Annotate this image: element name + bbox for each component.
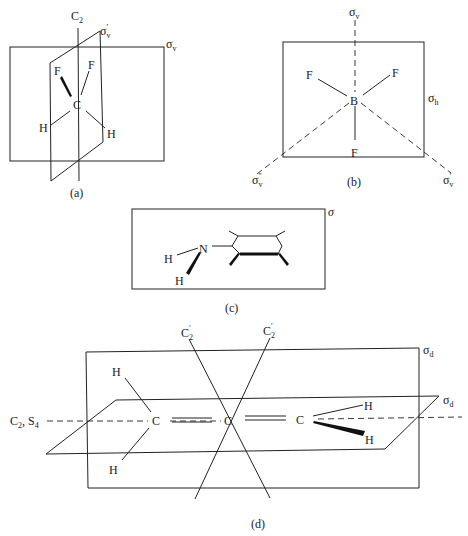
caption-d: (d) <box>251 517 265 531</box>
substituent <box>276 231 285 236</box>
panel-d: H H H H C C C C2, S4 C2′ C2′ σd σd (d) <box>10 322 462 531</box>
symmetry-figure: C2 σv′ σv F F C H H (a) σv σh σv″ σv′ F … <box>0 0 468 536</box>
panel-c: σ N H H (c) <box>132 205 335 315</box>
atom-h: H <box>112 365 121 379</box>
atom-f: F <box>306 68 313 82</box>
sigma-v-double-prime-line <box>257 103 349 174</box>
atom-f: F <box>88 58 95 72</box>
atom-b: B <box>350 94 358 108</box>
caption-a: (a) <box>70 186 83 200</box>
wedge-bond <box>60 76 72 97</box>
substituent <box>229 231 238 236</box>
bond <box>318 79 347 96</box>
atom-h: H <box>109 463 118 477</box>
atom-c: C <box>296 413 304 427</box>
sigma-plane <box>132 209 325 289</box>
wedge-bond <box>313 421 365 436</box>
sigma-v-double-prime-label: σv″ <box>252 172 262 189</box>
panel-b: σv σh σv″ σv′ F F B F (b) <box>252 5 453 189</box>
atom-c: C <box>224 414 232 428</box>
atom-h: H <box>107 127 116 141</box>
caption-c: (c) <box>225 301 238 315</box>
bond <box>122 428 149 460</box>
ring-bond <box>278 246 282 254</box>
atom-h: H <box>39 121 48 135</box>
atom-h: H <box>164 252 173 266</box>
wedge <box>278 253 289 266</box>
bond <box>81 71 89 95</box>
sigma-d-label-1: σd <box>423 343 433 359</box>
ring-bond <box>232 236 238 246</box>
bond <box>51 111 70 125</box>
sigma-label: σ <box>328 205 335 219</box>
c2-prime-left-label: C2′ <box>181 324 193 342</box>
ring-bond <box>232 246 240 254</box>
caption-b: (b) <box>347 175 361 189</box>
atom-h: H <box>365 433 374 447</box>
sigma-v-plane <box>10 47 164 161</box>
sigma-v-label: σv <box>349 5 359 21</box>
atom-h: H <box>175 274 184 288</box>
sigma-d-label-2: σd <box>443 393 453 409</box>
sigma-v-label: σv <box>166 37 176 53</box>
atom-c: C <box>152 414 160 428</box>
sigma-v-prime-label: σv′ <box>443 172 453 189</box>
c2-s4-axis-label: C2, S4 <box>10 414 39 430</box>
bond <box>177 248 198 255</box>
bond <box>313 405 363 416</box>
ring-bond <box>276 236 282 246</box>
atom-h: H <box>364 399 373 413</box>
sigma-h-label: σh <box>428 91 438 107</box>
c2-axis-label: C2 <box>71 9 83 25</box>
atom-f: F <box>392 66 399 80</box>
panel-a: C2 σv′ σv F F C H H (a) <box>10 9 176 200</box>
atom-f: F <box>351 146 358 160</box>
sigma-v-prime-label: σv′ <box>100 23 110 40</box>
bond <box>125 378 151 412</box>
atom-n: N <box>199 242 208 256</box>
atom-c: C <box>73 98 81 112</box>
atom-f: F <box>54 64 61 78</box>
c2-prime-right-label: C2′ <box>263 322 275 340</box>
c2-s4-axis <box>318 417 462 419</box>
sigma-v-prime-line <box>361 103 451 173</box>
sigma-d-horizontal-plane <box>46 396 439 454</box>
wedge <box>229 253 240 266</box>
bond <box>363 75 390 95</box>
